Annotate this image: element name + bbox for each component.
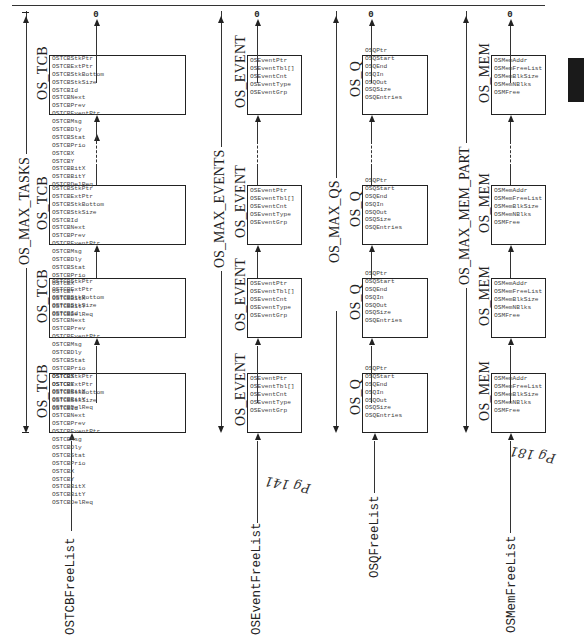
q-span-line-right	[336, 11, 337, 203]
event-ptr-link	[257, 346, 258, 403]
field: OSQSize	[365, 404, 402, 412]
mem-box: OSMemAddrOSMemFreeListOSMemBlkSizeOSMemN…	[491, 278, 546, 338]
arrow-head-icon	[94, 115, 100, 122]
field: OSQEnd	[365, 286, 402, 294]
q-null-link	[371, 25, 372, 83]
arrow-head-icon	[372, 433, 378, 440]
arrow-head-icon	[94, 245, 100, 252]
tcb-null-link	[96, 25, 97, 83]
arrow-head-icon	[218, 426, 224, 433]
tcb-box-title: OS_TCB	[35, 269, 51, 323]
q-box-title: OS_Q	[348, 61, 364, 97]
field: OSMemBlkSize	[494, 296, 542, 304]
field: OSTCBId	[52, 87, 104, 95]
mem-box: OSMemAddrOSMemFreeListOSMemBlkSizeOSMemN…	[491, 185, 546, 245]
field: OSMemAddr	[494, 187, 542, 195]
mem-freelist-link	[510, 346, 511, 403]
mem-box: OSMemAddrOSMemFreeListOSMemBlkSizeOSMemN…	[491, 373, 546, 433]
arrow-head-icon	[508, 245, 514, 252]
field: OSEventPtr	[250, 187, 295, 195]
q-field-list: OSQPtrOSQStartOSQEndOSQInOSQOutOSQSizeOS…	[365, 270, 402, 325]
field: OSTCBY	[52, 288, 104, 296]
q-box-title: OS_Q	[348, 379, 364, 415]
arrow-head-icon	[255, 433, 261, 440]
field: OSMFree	[494, 407, 542, 415]
tcb-next-link	[96, 167, 97, 185]
event-box: OSEventPtrOSEventTbl[]OSEventCntOSEventT…	[247, 185, 302, 245]
field: OSEventCnt	[250, 296, 295, 304]
tcb-next-link	[96, 252, 97, 278]
field: OSEventPtr	[250, 280, 295, 288]
field: OSTCBNext	[52, 224, 104, 232]
event-dashed-link	[257, 141, 258, 167]
mem-box-title: OS_MEM	[477, 361, 493, 421]
field: OSQOut	[365, 302, 402, 310]
field: OSMemAddr	[494, 280, 542, 288]
span-tick	[22, 12, 29, 13]
field: OSQStart	[365, 278, 402, 286]
q-ptr-link	[371, 122, 372, 141]
arrow-head-icon	[255, 338, 261, 345]
event-box-title: OS_EVENT	[233, 258, 249, 331]
field: OSMemNBlks	[494, 211, 542, 219]
event-box-title: OS_EVENT	[233, 165, 249, 238]
field: OSTCBDly	[52, 444, 104, 452]
mem-box: OSMemAddrOSMemFreeListOSMemBlkSizeOSMemN…	[491, 55, 546, 115]
field: OSTCBNext	[52, 412, 104, 420]
q-box-title: OS_Q	[348, 191, 364, 227]
field: OSTCBX	[52, 468, 104, 476]
field: OSTCBBitX	[52, 295, 104, 303]
field: OSTCBBitY	[52, 303, 104, 311]
arrow-head-icon	[508, 115, 514, 122]
field: OSEventType	[250, 304, 295, 312]
field: OSQSize	[365, 309, 402, 317]
mem-box-title: OS_MEM	[477, 173, 493, 233]
free-lists-diagram: OSTCBFreeList OS_MAX_TASKS OSTCBStkPtrOS…	[0, 0, 584, 643]
field: OSTCBStat	[52, 452, 104, 460]
field: OSTCBBitX	[52, 483, 104, 491]
arrow-head-icon	[255, 115, 261, 122]
tcb-max-label: OS_MAX_TASKS	[17, 154, 33, 268]
tcb-next-link	[96, 122, 97, 141]
mem-free-list-label: OSMemFreeList	[505, 535, 519, 633]
q-dashed-link	[371, 141, 372, 167]
q-free-list-label: OSQFreeList	[368, 495, 382, 578]
event-null-terminator: 0	[254, 10, 259, 20]
field: OSQSize	[365, 86, 402, 94]
q-field-list: OSQPtrOSQStartOSQEndOSQInOSQOutOSQSizeOS…	[365, 177, 402, 232]
field: OSQEntries	[365, 94, 402, 102]
field: OSTCBStkSize	[52, 209, 104, 217]
event-box-title: OS_EVENT	[233, 353, 249, 426]
field: OSTCBNext	[52, 94, 104, 102]
arrow-head-icon	[508, 338, 514, 345]
field: OSQSize	[365, 216, 402, 224]
field: OSMemBlkSize	[494, 391, 542, 399]
mem-null-terminator: 0	[507, 10, 512, 20]
arrow-head-icon	[94, 338, 100, 345]
field: OSMemNBlks	[494, 81, 542, 89]
q-box: OSQPtrOSQStartOSQEndOSQInOSQOutOSQSizeOS…	[362, 185, 428, 245]
arrow-head-icon	[463, 16, 469, 23]
event-box-title: OS_EVENT	[233, 35, 249, 108]
field: OSTCBId	[52, 217, 104, 225]
field: OSEventTbl[]	[250, 288, 295, 296]
event-null-link	[257, 25, 258, 83]
tcb-box-title: OS_TCB	[35, 364, 51, 418]
event-box: OSEventPtrOSEventTbl[]OSEventCntOSEventT…	[247, 278, 302, 338]
field: OSTCBPrev	[52, 420, 104, 428]
field: OSMemFreeList	[494, 383, 542, 391]
field: OSQOut	[365, 209, 402, 217]
field: OSMemFreeList	[494, 65, 542, 73]
field: OSEventTbl[]	[250, 195, 295, 203]
arrow-head-icon	[508, 433, 514, 440]
field: OSEventCnt	[250, 203, 295, 211]
mem-box-title: OS_MEM	[477, 266, 493, 326]
field: OSMemNBlks	[494, 399, 542, 407]
event-field-list: OSEventPtrOSEventTbl[]OSEventCntOSEventT…	[250, 280, 295, 319]
arrow-head-icon	[463, 426, 469, 433]
field: OSMFree	[494, 219, 542, 227]
event-box: OSEventPtrOSEventTbl[]OSEventCntOSEventT…	[247, 373, 302, 433]
field: OSQEntries	[365, 224, 402, 232]
field: OSQIn	[365, 294, 402, 302]
field: OSMemBlkSize	[494, 203, 542, 211]
